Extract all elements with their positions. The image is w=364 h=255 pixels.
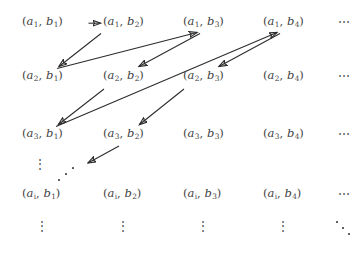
cell-a1-b1: (a1, b1) [22, 16, 63, 28]
bottom-diagonal-ellipsis [336, 221, 356, 237]
cell-a1-b3: (a1, b3) [183, 16, 224, 28]
row-3-trailing-ellipsis: ⋯ [338, 128, 350, 140]
bottom-vertical-ellipsis-col3: ⋮ [197, 220, 203, 232]
row-1-trailing-ellipsis: ⋯ [338, 16, 350, 28]
arrow-a2b3-to-a3b2 [140, 89, 185, 125]
cell-a2-b1: (a2, b1) [22, 70, 63, 82]
arrow-a3b1-to-a1b4 [56, 33, 277, 127]
cell-a2-b2: (a2, b2) [103, 70, 144, 82]
bottom-vertical-ellipsis-col4: ⋮ [277, 220, 283, 232]
row-i-trailing-ellipsis: ⋯ [338, 188, 350, 200]
cantor-enumeration-diagram: (a1, b1) (a1, b2) (a1, b3) (a1, b4) ⋯ (a… [0, 0, 364, 255]
bottom-vertical-ellipsis-col2: ⋮ [117, 220, 123, 232]
cell-a3-b3: (a3, b3) [183, 128, 224, 140]
cell-a3-b4: (a3, b4) [263, 128, 304, 140]
cell-ai-b1: (ai, b1) [22, 188, 60, 200]
cell-ai-b2: (ai, b2) [103, 188, 141, 200]
gap-diagonal-ellipsis [58, 166, 82, 182]
arrow-a1b2-to-a2b1 [59, 34, 101, 67]
cell-a1-b2: (a1, b2) [103, 16, 144, 28]
cell-a3-b1: (a3, b1) [22, 128, 63, 140]
arrow-a2b2-to-a3b1 [59, 89, 105, 125]
cell-ai-b4: (ai, b4) [263, 188, 301, 200]
cell-a2-b3: (a2, b3) [183, 70, 224, 82]
cell-a1-b4: (a1, b4) [263, 16, 304, 28]
arrow-a1b3-to-a2b2 [139, 34, 200, 67]
cell-a2-b4: (a2, b4) [263, 70, 304, 82]
cell-a3-b2: (a3, b2) [103, 128, 144, 140]
row-2-trailing-ellipsis: ⋯ [338, 70, 350, 82]
arrow-a2b1-to-a1b3 [57, 33, 197, 69]
gap-vertical-ellipsis: ⋮ [34, 158, 40, 170]
bottom-vertical-ellipsis-col1: ⋮ [36, 220, 42, 232]
arrow-a1b4-to-a2b3 [219, 34, 280, 67]
arrow-a3b2-to-a4b1 [88, 146, 119, 163]
cell-ai-b3: (ai, b3) [183, 188, 221, 200]
